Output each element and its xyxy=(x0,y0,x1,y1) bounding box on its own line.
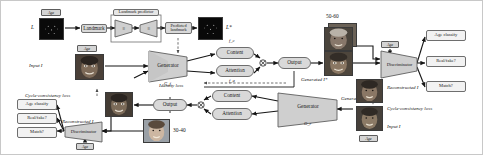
forward-output-age-classify: Age classify xyxy=(426,30,466,41)
source-age-real-thumbnail xyxy=(143,119,170,143)
reverse-attention-box: Attention xyxy=(212,108,252,120)
content-feature-label: f_c xyxy=(229,38,235,43)
real-target-age-image-stack xyxy=(324,27,353,51)
reverse-content-box: Content xyxy=(212,90,252,102)
input-image-label-right: Input I xyxy=(387,124,400,129)
reverse-generator-subscript: G_r xyxy=(304,121,311,126)
attention-feature-label: f_a xyxy=(229,78,235,83)
connector-layer xyxy=(1,1,483,155)
input-image-label-left: Input I xyxy=(29,63,42,68)
reconstructed-face-thumbnail xyxy=(105,92,133,117)
age-chip-reverse-input: Age xyxy=(359,135,378,142)
reconstructed-image-label-left: Reconstructed I xyxy=(62,119,94,124)
generated-image-label-forward: Generated I* xyxy=(301,77,328,82)
age-chip-landmark: Age xyxy=(41,9,61,16)
forward-output-match: Match? xyxy=(426,81,466,92)
predicted-landmark-box: Predicted landmark xyxy=(165,22,192,34)
reverse-output-match: Match? xyxy=(17,127,57,138)
reconstructed-face-thumbnail-right xyxy=(356,79,383,103)
source-age-range-label: 30-40 xyxy=(173,128,186,133)
input-face-thumbnail xyxy=(75,54,104,80)
age-chip-reverse-discriminator: Age xyxy=(76,143,94,150)
age-chip-forward-input: Age xyxy=(77,45,97,52)
identity-loss-label: Identity loss xyxy=(159,83,183,88)
figure-canvas: L Age Landmark Landmark predictor ≡ ≡ Pr… xyxy=(0,0,483,155)
forward-content-box: Content xyxy=(216,47,254,59)
cycle-consistency-loss-left: Cycle-consistency loss xyxy=(25,93,70,98)
landmark-box: Landmark xyxy=(81,24,107,33)
reverse-output-box: Output xyxy=(153,99,187,111)
source-landmark-image-label: L xyxy=(31,24,34,30)
age-chip-forward-discriminator: Age xyxy=(381,41,399,48)
forward-output-box: Output xyxy=(278,57,311,69)
target-age-range-label: 50-60 xyxy=(326,14,339,19)
landmark-predictor-title: Landmark predictor xyxy=(113,9,159,16)
predicted-landmark-thumbnail xyxy=(198,17,223,40)
reconstructed-image-label-right: Reconstructed I xyxy=(387,85,419,90)
target-landmark-image-label: L* xyxy=(226,24,232,30)
reverse-output-real-fake: Real/fake? xyxy=(17,113,57,124)
source-landmark-thumbnail xyxy=(39,18,64,40)
generated-face-thumbnail-forward xyxy=(324,51,353,76)
input-face-thumbnail-right xyxy=(356,106,383,131)
reverse-output-age-classify: Age classify xyxy=(17,99,57,110)
forward-attention-box: Attention xyxy=(216,65,254,77)
cycle-consistency-loss-right: Cycle-consistency loss xyxy=(387,106,432,111)
forward-output-real-fake: Real/fake? xyxy=(426,56,466,67)
